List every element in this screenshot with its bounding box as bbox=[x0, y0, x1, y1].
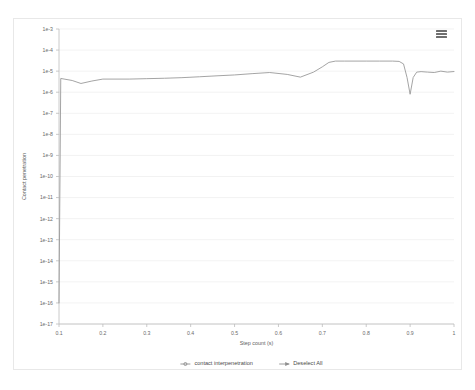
x-tick-label: 0.9 bbox=[407, 330, 414, 336]
y-tick-label: 1e-14 bbox=[40, 258, 53, 264]
y-tick-label: 1e-11 bbox=[40, 194, 53, 200]
menu-icon-bar-1 bbox=[436, 30, 447, 32]
chart-panel: 1e-31e-41e-51e-61e-71e-81e-91e-101e-111e… bbox=[13, 18, 462, 370]
series-line-contact-interpenetration bbox=[59, 61, 454, 303]
y-tick-label: 1e-7 bbox=[43, 110, 53, 116]
y-axis-title: Contact penetration bbox=[21, 153, 27, 200]
x-tick-label: 0.5 bbox=[231, 330, 238, 336]
y-tick-label: 1e-8 bbox=[43, 131, 53, 137]
y-tick-label: 1e-16 bbox=[40, 300, 53, 306]
y-axis-ticks-group: 1e-31e-41e-51e-61e-71e-81e-91e-101e-111e… bbox=[40, 26, 59, 327]
legend-label: contact interpenetration bbox=[194, 360, 252, 366]
y-tick-label: 1e-12 bbox=[40, 216, 53, 222]
x-axis-title: Step count (s) bbox=[240, 340, 274, 346]
y-tick-label: 1e-17 bbox=[40, 321, 53, 327]
x-tick-label: 0.3 bbox=[143, 330, 150, 336]
y-tick-label: 1e-13 bbox=[40, 237, 53, 243]
x-axis-ticks-group: 0.10.20.30.40.50.60.70.80.91 bbox=[55, 324, 455, 336]
legend-label: Deselect All bbox=[293, 360, 322, 366]
legend-marker-arrow-icon bbox=[285, 362, 290, 366]
x-tick-label: 0.1 bbox=[55, 330, 62, 336]
chart-svg: 1e-31e-41e-51e-61e-71e-81e-91e-101e-111e… bbox=[14, 19, 463, 371]
x-tick-label: 0.6 bbox=[275, 330, 282, 336]
x-tick-label: 0.7 bbox=[319, 330, 326, 336]
chart-menu-icon[interactable] bbox=[436, 29, 447, 39]
legend-item[interactable]: contact interpenetration bbox=[180, 360, 252, 366]
y-tick-label: 1e-4 bbox=[43, 47, 53, 53]
y-tick-label: 1e-3 bbox=[43, 26, 53, 32]
x-tick-label: 1 bbox=[453, 330, 456, 336]
x-tick-label: 0.4 bbox=[187, 330, 194, 336]
y-tick-label: 1e-10 bbox=[40, 173, 53, 179]
y-tick-label: 1e-15 bbox=[40, 279, 53, 285]
x-tick-label: 0.2 bbox=[99, 330, 106, 336]
legend-item[interactable]: Deselect All bbox=[279, 360, 322, 366]
x-tick-label: 0.8 bbox=[363, 330, 370, 336]
chart-plot-area: 1e-31e-41e-51e-61e-71e-81e-91e-101e-111e… bbox=[14, 19, 463, 371]
y-tick-label: 1e-6 bbox=[43, 89, 53, 95]
menu-icon-bar-2 bbox=[436, 33, 447, 35]
chart-legend: contact interpenetrationDeselect All bbox=[180, 360, 322, 366]
y-tick-label: 1e-5 bbox=[43, 68, 53, 74]
menu-icon-bar-3 bbox=[436, 36, 447, 38]
y-tick-label: 1e-9 bbox=[43, 152, 53, 158]
